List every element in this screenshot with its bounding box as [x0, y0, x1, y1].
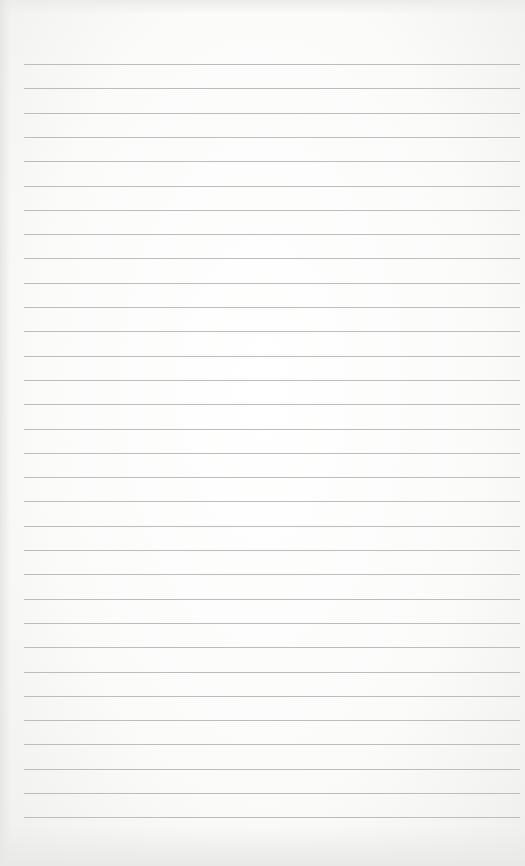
- ruled-line: [24, 210, 520, 211]
- ruled-line: [24, 453, 520, 454]
- ruled-line: [24, 599, 520, 600]
- ruled-line: [24, 672, 520, 673]
- ruled-line: [24, 88, 520, 89]
- ruled-line: [24, 186, 520, 187]
- ruled-line: [24, 137, 520, 138]
- ruled-line: [24, 307, 520, 308]
- ruled-line: [24, 623, 520, 624]
- ruled-line: [24, 744, 520, 745]
- ruled-line: [24, 113, 520, 114]
- ruled-line: [24, 647, 520, 648]
- ruled-line: [24, 769, 520, 770]
- ruled-line: [24, 283, 520, 284]
- ruled-line: [24, 550, 520, 551]
- ruled-line: [24, 526, 520, 527]
- lined-paper-sheet: [0, 0, 525, 866]
- ruled-line: [24, 501, 520, 502]
- ruled-line: [24, 793, 520, 794]
- paper-bottom-edge-shadow: [0, 826, 525, 866]
- ruled-line: [24, 429, 520, 430]
- ruled-line: [24, 331, 520, 332]
- paper-top-edge-shadow: [0, 0, 525, 14]
- ruled-line: [24, 356, 520, 357]
- ruled-line: [24, 380, 520, 381]
- ruled-line: [24, 161, 520, 162]
- ruled-line: [24, 477, 520, 478]
- ruled-line: [24, 574, 520, 575]
- ruled-line: [24, 720, 520, 721]
- ruled-line: [24, 817, 520, 818]
- ruled-line: [24, 64, 520, 65]
- ruled-line: [24, 404, 520, 405]
- ruled-line: [24, 258, 520, 259]
- ruled-line: [24, 696, 520, 697]
- paper-left-edge-shadow: [0, 0, 10, 866]
- ruled-line: [24, 234, 520, 235]
